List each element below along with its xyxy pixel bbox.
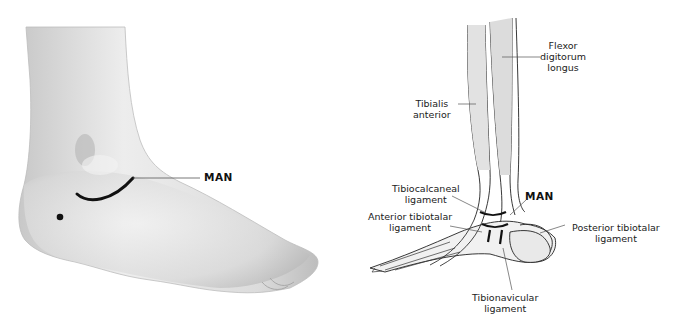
ankle-anatomy-diagram: Flexor digitorum longus Tibialis anterio… (340, 0, 679, 331)
man-label-right: MAN (525, 191, 554, 202)
anatomy-drawing (340, 0, 679, 331)
label-tibionavicular-ligament: Tibionavicular ligament (472, 292, 538, 314)
label-posterior-tibiotalar-ligament: Posterior tibiotalar ligament (572, 222, 660, 244)
label-tibiocalcaneal-ligament: Tibiocalcaneal ligament (392, 183, 460, 205)
landmark-dot (57, 214, 64, 221)
label-tibialis-anterior: Tibialis anterior (413, 98, 451, 120)
man-label-left: MAN (204, 172, 233, 183)
label-anterior-tibiotalar-ligament: Anterior tibiotalar ligament (368, 211, 452, 233)
foot-drawing (0, 0, 340, 331)
label-flexor-digitorum-longus: Flexor digitorum longus (540, 40, 586, 73)
foot-surface-illustration: MAN (0, 0, 340, 331)
